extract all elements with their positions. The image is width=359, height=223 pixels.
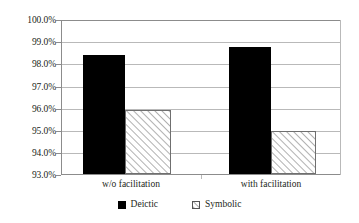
y-axis-tick-mark [56,175,61,176]
y-axis-tick-label: 99.0% [4,37,56,47]
bar-symbolic-wo-facilitation [125,110,171,174]
bar-chart: 100.0% 99.0% 98.0% 97.0% 96.0% 95.0% 94.… [0,0,359,223]
y-axis-tick-label: 94.0% [4,148,56,158]
hatch-pattern [126,111,170,173]
hatch-pattern [272,132,315,173]
hatched-square-icon [192,201,200,209]
plot-area [61,20,341,175]
bar-deictic-wo-facilitation [83,55,125,174]
gridline-100 [62,20,340,21]
x-axis-category-label-0: w/o facilitation [61,179,201,190]
legend-item-deictic: Deictic [118,199,158,210]
y-axis-tick-label: 95.0% [4,126,56,136]
chart-legend: Deictic Symbolic [0,199,359,210]
bar-deictic-with-facilitation [229,47,271,174]
y-axis-tick-label: 100.0% [4,15,56,25]
y-axis-tick-label: 97.0% [4,82,56,92]
solid-square-icon [118,201,126,209]
bar-symbolic-with-facilitation [271,131,316,174]
y-axis-tick-label: 96.0% [4,104,56,114]
y-axis-tick-label: 98.0% [4,59,56,69]
legend-label-symbolic: Symbolic [205,199,241,210]
x-axis-category-label-1: with facilitation [201,179,341,190]
gridline-99 [62,42,340,43]
y-axis-tick-label: 93.0% [4,170,56,180]
legend-item-symbolic: Symbolic [192,199,241,210]
legend-label-deictic: Deictic [131,199,158,210]
